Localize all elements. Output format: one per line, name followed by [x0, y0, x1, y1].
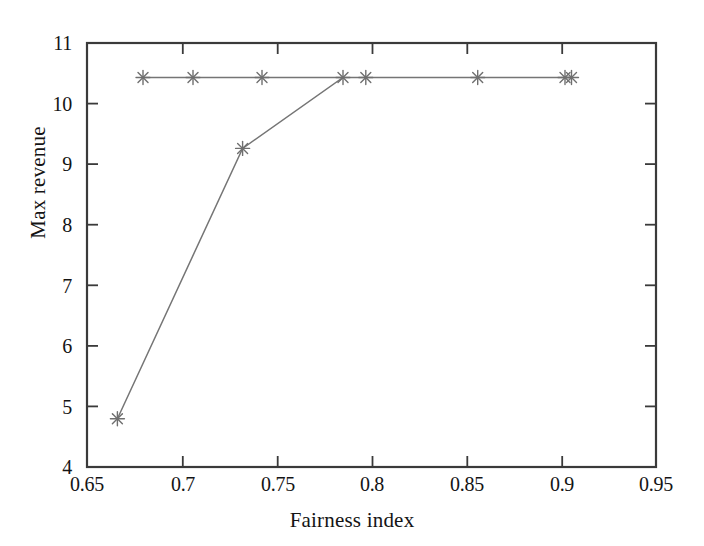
- xtick-label-0-8: 0.8: [332, 474, 412, 494]
- axes-frame: [87, 43, 656, 467]
- data-point-markers: [110, 71, 578, 426]
- ytick-label-6: 6: [32, 336, 72, 356]
- data-series-line: [117, 78, 570, 419]
- xtick-label-0-9: 0.9: [522, 474, 602, 494]
- ytick-label-5: 5: [32, 397, 72, 417]
- plot-border: [87, 43, 656, 467]
- x-axis-label: Fairness index: [0, 508, 704, 533]
- xtick-label-0-75: 0.75: [238, 474, 318, 494]
- chart-figure: 11 10 9 8 7 6 5 4 0.65 0.7 0.75 0.8 0.85…: [0, 0, 704, 546]
- xtick-label-0-95: 0.95: [616, 474, 696, 494]
- ytick-label-7: 7: [32, 276, 72, 296]
- xtick-label-0-7: 0.7: [143, 474, 223, 494]
- y-axis-label: Max revenue: [26, 93, 51, 273]
- xtick-label-0-65: 0.65: [47, 474, 127, 494]
- ytick-label-11: 11: [32, 33, 72, 53]
- plot-area: [0, 0, 704, 546]
- y-axis-ticks: [87, 104, 656, 407]
- x-axis-ticks: [183, 43, 562, 467]
- xtick-label-0-85: 0.85: [427, 474, 507, 494]
